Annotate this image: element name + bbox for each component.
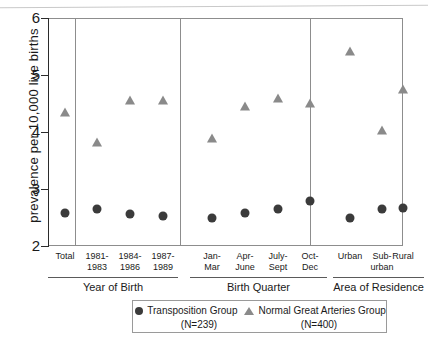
scan-artifact-line [0,5,428,9]
triangle-marker-icon [244,307,254,315]
data-point-normal [345,47,355,56]
panel-group-label: Birth Quarter [227,281,290,294]
panel-group-rule [48,277,178,278]
panel-group-label: Year of Birth [83,281,143,294]
legend-n-normal: (N=400) [301,319,337,330]
panel-group-rule [333,277,424,278]
data-point-normal [125,96,135,105]
panel-divider-2 [180,18,181,246]
data-point-normal [273,93,283,102]
data-point-normal [305,98,315,107]
circle-marker-icon [135,307,143,315]
panel-group-label: Area of Residence [333,281,424,294]
data-point-normal [207,133,217,142]
data-point-transposition [399,203,408,212]
data-point-transposition [159,211,168,220]
y-axis-line [48,18,49,246]
legend-n-transposition: (N=239) [181,319,217,330]
legend-entry-transposition: Transposition Group [135,305,237,316]
y-axis-tick-label: 2 [6,238,40,253]
panel-divider-3 [310,18,311,246]
data-point-transposition [208,214,217,223]
data-point-transposition [346,214,355,223]
y-axis-tick-label: 6 [6,10,40,25]
data-point-normal [240,101,250,110]
y-axis-tick [41,246,49,247]
data-point-normal [377,125,387,134]
data-point-normal [92,138,102,147]
data-point-normal [398,85,408,94]
data-point-transposition [378,204,387,213]
x-axis-tick-label: Rural [380,251,426,262]
panel-group-rule [190,277,327,278]
y-axis-tick-label: 5 [6,67,40,82]
data-point-transposition [274,204,283,213]
legend-label-transposition: Transposition Group [147,305,237,316]
data-point-transposition [241,208,250,217]
data-point-normal [158,95,168,104]
y-axis-tick-label: 3 [6,181,40,196]
x-axis-tick-label: 1987- 1989 [140,251,186,273]
y-axis-tick-label: 4 [6,124,40,139]
legend-label-normal: Normal Great Arteries Group [258,305,385,316]
data-point-transposition [61,208,70,217]
data-point-transposition [306,196,315,205]
chart-figure: prevalence per 10,000 live births 23456 … [0,0,428,339]
legend-entry-normal: Normal Great Arteries Group [244,305,385,316]
legend-entries: Transposition Group Normal Great Arterie… [133,305,388,316]
data-point-normal [60,108,70,117]
chart-legend: Transposition Group Normal Great Arterie… [132,300,387,333]
panel-divider-1 [75,18,76,246]
data-point-transposition [126,210,135,219]
data-point-transposition [93,204,102,213]
